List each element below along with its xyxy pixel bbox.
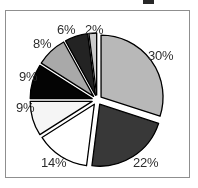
pie-slice-label: 22% bbox=[133, 155, 158, 170]
pie-slice-group bbox=[30, 33, 163, 166]
pie-slice-label: 30% bbox=[148, 48, 173, 63]
pie-slice-label: 14% bbox=[41, 155, 66, 170]
pie-slice-label: 6% bbox=[57, 22, 75, 37]
pie-slice-label: 8% bbox=[33, 36, 51, 51]
pie-slice-label: 9% bbox=[19, 69, 37, 84]
pie-slice-label: 2% bbox=[85, 22, 103, 37]
pie-chart-figure: 30%22%14%9%9%8%6%2% bbox=[0, 0, 198, 188]
pie-slice-label: 9% bbox=[16, 100, 34, 115]
